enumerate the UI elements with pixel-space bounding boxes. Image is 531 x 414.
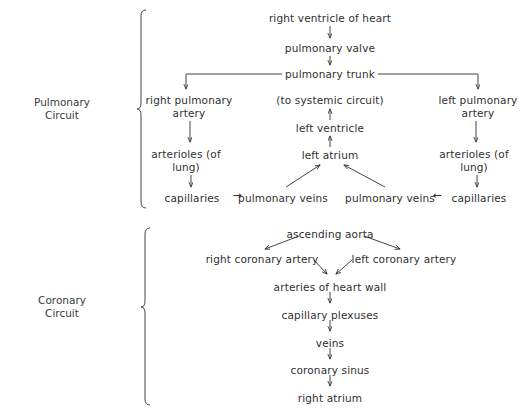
node-left-pulmonary-artery: left pulmonaryartery <box>439 94 518 120</box>
pulmonary-circuit-label: PulmonaryCircuit <box>34 96 90 122</box>
pulmonary-circuit-label-line1: Pulmonary <box>34 96 90 108</box>
connector-lines-layer <box>0 0 531 414</box>
node-to-systemic-circuit: (to systemic circuit) <box>276 94 383 107</box>
coronary-circuit-label-line1: Coronary <box>38 294 86 306</box>
node-right-pulmonary-artery-line2: artery <box>173 107 206 119</box>
node-left-coronary-artery: left coronary artery <box>352 253 457 266</box>
node-pulmonary-valve: pulmonary valve <box>285 42 375 55</box>
coronary-circuit-bracket <box>141 228 150 405</box>
coronary-circuit-label: CoronaryCircuit <box>38 294 86 320</box>
node-arterioles-of-lung-right-line1: arterioles (of <box>439 148 509 160</box>
node-veins: veins <box>316 337 344 350</box>
pulmonary-circuit-label-line2: Circuit <box>45 109 79 121</box>
node-capillary-plexuses: capillary plexuses <box>282 309 379 322</box>
left-arrow-icon: ← <box>432 190 441 202</box>
node-pulmonary-veins-right: pulmonary veins <box>345 192 435 205</box>
node-right-atrium: right atrium <box>298 392 362 405</box>
node-capillaries-right: capillaries <box>452 192 507 205</box>
node-pulmonary-veins-left: pulmonary veins <box>238 192 328 205</box>
circulation-flow-diagram: PulmonaryCircuit CoronaryCircuit right v… <box>0 0 531 414</box>
node-arterioles-of-lung-right-line2: lung) <box>460 161 488 173</box>
node-arterioles-of-lung-right: arterioles (oflung) <box>439 148 509 174</box>
right-arrow-icon: → <box>232 190 241 202</box>
node-right-coronary-artery: right coronary artery <box>206 253 319 266</box>
node-left-pulmonary-artery-line1: left pulmonary <box>439 94 518 106</box>
node-ascending-aorta: ascending aorta <box>286 228 373 241</box>
node-right-pulmonary-artery-line1: right pulmonary <box>146 94 233 106</box>
node-right-pulmonary-artery: right pulmonaryartery <box>146 94 233 120</box>
node-left-pulmonary-artery-line2: artery <box>462 107 495 119</box>
coronary-circuit-label-line2: Circuit <box>45 307 79 319</box>
section-brackets <box>137 10 150 405</box>
node-capillaries-left: capillaries <box>165 192 220 205</box>
arrow-pulmonary-veins-right-to-left-atrium <box>344 165 385 187</box>
arrow-pulmonary-veins-left-to-left-atrium <box>286 165 320 187</box>
node-pulmonary-trunk: pulmonary trunk <box>285 68 375 81</box>
node-right-ventricle-of-heart: right ventricle of heart <box>269 12 391 25</box>
node-arterioles-of-lung-left: arterioles (oflung) <box>151 148 221 174</box>
arrow-lca-to-arteries-of-heart-wall <box>336 260 352 274</box>
node-left-atrium: left atrium <box>302 149 359 162</box>
node-arteries-of-heart-wall: arteries of heart wall <box>274 281 387 294</box>
node-arterioles-of-lung-left-line2: lung) <box>172 161 200 173</box>
node-coronary-sinus: coronary sinus <box>291 364 370 377</box>
node-arterioles-of-lung-left-line1: arterioles (of <box>151 148 221 160</box>
node-left-ventricle: left ventricle <box>296 122 364 135</box>
